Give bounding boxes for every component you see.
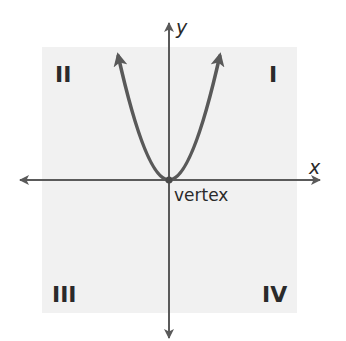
quadrant-2-label: II [55,62,71,87]
quadrant-4-label: IV [262,282,287,307]
coordinate-plane-diagram: y x vertex II I III IV [0,0,346,341]
quadrant-1-label: I [269,62,277,87]
quadrant-3-label: III [52,282,77,307]
vertex-label: vertex [174,185,228,205]
y-axis-label: y [175,16,188,38]
x-axis-label: x [308,156,321,178]
vertex-point [166,177,173,184]
